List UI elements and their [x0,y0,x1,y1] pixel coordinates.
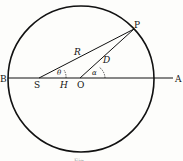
label-S: S [34,80,40,90]
label-A: A [174,74,182,84]
figure-caption: Fig. [74,157,86,161]
label-H: H [59,80,68,90]
circle-diagram: P A B S O R D H θ α Fig. [0,0,183,161]
circle [8,6,154,152]
label-B: B [0,74,7,84]
label-alpha: α [92,69,97,77]
label-D: D [102,55,110,65]
angle-theta-arc [64,70,66,78]
segment-SP [39,29,134,78]
segment-OP [80,29,134,78]
angle-alpha-arc [99,67,105,78]
label-theta: θ [57,69,62,77]
label-R: R [73,47,81,57]
label-O: O [77,80,84,90]
label-P: P [134,20,140,30]
